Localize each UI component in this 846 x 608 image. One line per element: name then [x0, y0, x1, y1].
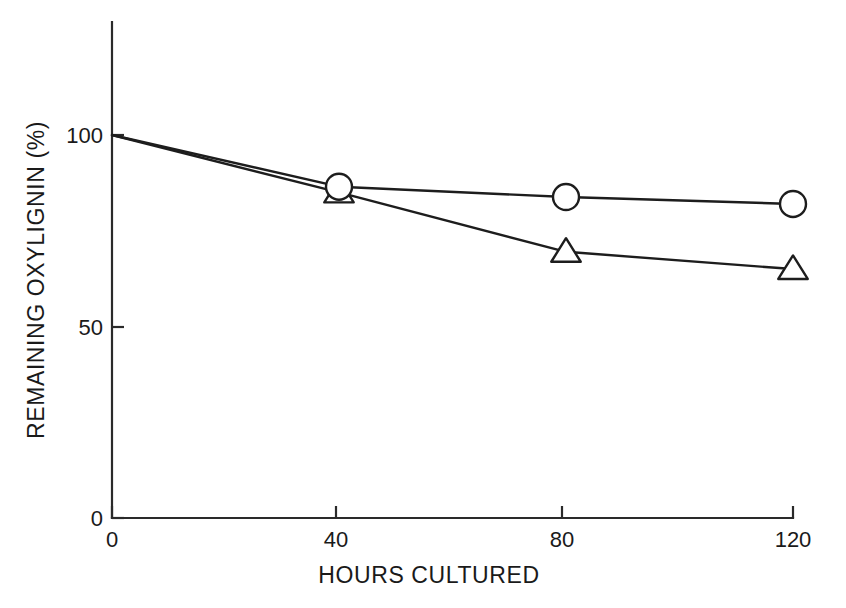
line-chart-svg: 0 50 100 0 40 80 120 HOURS CULTURED REMA… — [0, 0, 846, 608]
y-tick-label-50: 50 — [79, 315, 103, 340]
circle-marker — [780, 191, 806, 217]
x-tick-label-40: 40 — [324, 527, 348, 552]
y-tick-label-0: 0 — [91, 506, 103, 531]
chart-figure: 0 50 100 0 40 80 120 HOURS CULTURED REMA… — [0, 0, 846, 608]
x-tick-label-0: 0 — [106, 527, 118, 552]
x-tick-label-120: 120 — [775, 527, 812, 552]
y-tick-label-100: 100 — [66, 123, 103, 148]
circle-marker — [326, 174, 352, 200]
chart-background — [0, 0, 846, 608]
circle-marker — [553, 184, 579, 210]
y-axis-title: REMAINING OXYLIGNIN (%) — [23, 121, 49, 439]
x-axis-title: HOURS CULTURED — [318, 562, 539, 588]
x-tick-label-80: 80 — [550, 527, 574, 552]
